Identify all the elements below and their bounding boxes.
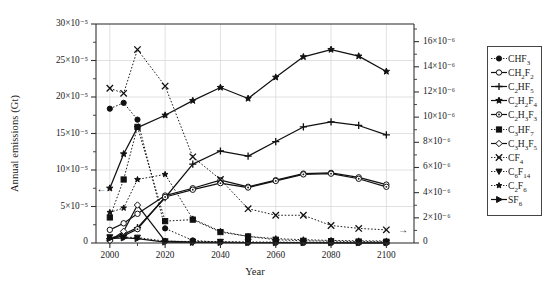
legend-box: CHF3CH2F2C2HF5C2H2F4C2H3F3C3HF7C3H3F5CF4…: [487, 46, 542, 216]
legend-label: CF4: [507, 152, 523, 163]
y-tick-label-left: 10×10⁻⁵: [56, 163, 88, 174]
x-tick-label: 2000: [88, 250, 132, 260]
legend-item-C2F6[interactable]: C2F6: [491, 179, 539, 193]
legend-label: C2HF5: [507, 81, 534, 92]
plus-icon: [491, 81, 507, 92]
x-tick-label: 2100: [364, 250, 408, 260]
legend-item-CF4[interactable]: CF4: [491, 150, 539, 164]
legend-label: C6F14: [507, 166, 530, 177]
series-CF4: [107, 46, 390, 233]
open-diamond-icon: [491, 138, 507, 149]
legend-label: CHF3: [507, 53, 530, 64]
chart-figure: Annual emissions (Gt) Annual emissions (…: [0, 0, 559, 287]
y-tick-label-right: 16×10⁻⁶: [423, 35, 455, 46]
filled-circle-icon: [491, 53, 507, 64]
y-tick-label-right: 10×10⁻⁶: [423, 110, 455, 121]
legend-item-C2H3F3[interactable]: C2H3F3: [491, 108, 539, 122]
legend-item-CH2F2[interactable]: CH2F2: [491, 65, 539, 79]
right-triangle-icon: [491, 194, 507, 205]
annotation-left-arrow: ←: [97, 183, 107, 194]
x-tick-label: 2060: [254, 250, 298, 260]
legend-item-C2HF5[interactable]: C2HF5: [491, 79, 539, 93]
down-triangle-icon: [491, 166, 507, 177]
open-circle-dot-icon: [491, 109, 507, 120]
legend-item-C3H3F5[interactable]: C3H3F5: [491, 136, 539, 150]
filled-square-icon: [491, 124, 507, 135]
y-tick-label-right: 0: [423, 236, 428, 246]
legend-label: C3HF7: [507, 124, 534, 135]
filled-star-small-icon: [491, 180, 507, 191]
x-axis-title: Year: [96, 266, 414, 277]
y-tick-label-left: 0: [83, 236, 88, 246]
series-C2F6: [107, 171, 389, 243]
y-tick-label-left: 5×10⁻⁵: [61, 200, 88, 211]
series-C2H2F4: [107, 46, 390, 191]
filled-star-icon: [491, 95, 507, 106]
legend-label: C3H3F5: [507, 138, 537, 149]
y-tick-label-right: 2×10⁻⁶: [423, 211, 450, 222]
legend-label: CH2F2: [507, 67, 534, 78]
legend-label: C2F6: [507, 180, 527, 191]
x-tick-label: 2040: [198, 250, 242, 260]
annotation-right-arrow: →: [398, 224, 408, 235]
series-C2HF5: [106, 118, 390, 242]
y-tick-label-right: 8×10⁻⁶: [423, 135, 450, 146]
legend-item-C3HF7[interactable]: C3HF7: [491, 122, 539, 136]
legend-item-SF6[interactable]: SF6: [491, 193, 539, 207]
series-CH2F2: [107, 170, 389, 232]
x-cross-icon: [491, 152, 507, 163]
x-tick-label: 2020: [143, 250, 187, 260]
y-tick-label-left: 20×10⁻⁵: [56, 90, 88, 101]
y-tick-label-left: 30×10⁻⁵: [56, 17, 88, 28]
open-circle-icon: [491, 67, 507, 78]
legend-item-CHF3[interactable]: CHF3: [491, 51, 539, 65]
y-axis-left-title: Annual emissions (Gt): [9, 79, 20, 209]
y-tick-label-right: 6×10⁻⁶: [423, 160, 450, 171]
y-tick-label-left: 15×10⁻⁵: [56, 127, 88, 138]
legend-label: SF6: [507, 194, 522, 205]
x-tick-label: 2080: [309, 250, 353, 260]
y-tick-label-right: 4×10⁻⁶: [423, 186, 450, 197]
y-tick-label-right: 14×10⁻⁶: [423, 60, 455, 71]
legend-item-C6F14[interactable]: C6F14: [491, 165, 539, 179]
legend-item-C2H2F4[interactable]: C2H2F4: [491, 94, 539, 108]
legend-label: C2H2F4: [507, 95, 537, 106]
y-tick-label-right: 12×10⁻⁶: [423, 85, 455, 96]
legend-label: C2H3F3: [507, 109, 537, 120]
y-tick-label-left: 25×10⁻⁵: [56, 54, 88, 65]
